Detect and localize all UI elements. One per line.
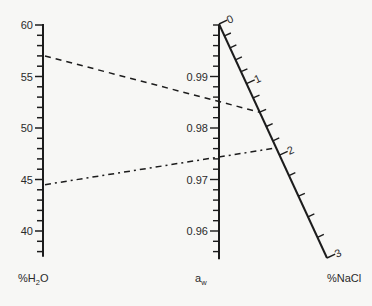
isopleth-line	[45, 56, 260, 112]
h2o-tick-label: 60	[21, 19, 33, 31]
h2o-axis-title: %H2O	[18, 272, 49, 287]
aw-axis-title: aw	[195, 272, 207, 287]
h2o-tick-label: 55	[21, 71, 33, 83]
aw-tick-label: 0.99	[187, 71, 208, 83]
h2o-tick-label: 40	[21, 225, 33, 237]
nomogram-svg: 6055504540 0.990.980.970.96 0123 %H2O aw…	[0, 0, 372, 306]
nacl-minor-tick	[289, 173, 295, 176]
isopleth-lines	[45, 56, 276, 185]
aw-axis: 0.990.980.970.96	[187, 25, 219, 259]
nacl-major-tick	[247, 80, 255, 84]
nacl-minor-tick	[317, 234, 323, 237]
h2o-axis: 6055504540	[21, 19, 43, 257]
nacl-tick-label: 0	[225, 12, 236, 25]
h2o-tick-label: 50	[21, 122, 33, 134]
nacl-minor-tick	[253, 95, 259, 98]
nacl-major-tick	[279, 151, 287, 155]
nomogram-figure: 6055504540 0.990.980.970.96 0123 %H2O aw…	[0, 0, 372, 306]
nacl-minor-tick	[241, 69, 247, 72]
nacl-tick-label: 3	[333, 246, 344, 259]
nacl-minor-tick	[225, 33, 231, 36]
nacl-tick-label: 1	[252, 72, 263, 85]
h2o-tick-label: 45	[21, 174, 33, 186]
nacl-minor-tick	[230, 45, 236, 48]
nacl-minor-tick	[266, 124, 272, 127]
nacl-major-tick	[219, 20, 227, 24]
aw-tick-label: 0.98	[187, 122, 208, 134]
isopleth-line	[45, 148, 276, 185]
nacl-tick-label: 2	[285, 143, 296, 156]
nacl-axis: 0123	[219, 12, 343, 259]
nacl-axis-title: %NaCl	[327, 272, 361, 284]
nacl-major-tick	[327, 254, 335, 258]
nacl-minor-tick	[298, 193, 304, 196]
nacl-minor-tick	[273, 138, 279, 141]
nacl-minor-tick	[236, 57, 242, 60]
aw-tick-label: 0.96	[187, 225, 208, 237]
aw-tick-label: 0.97	[187, 174, 208, 186]
nacl-minor-tick	[308, 214, 314, 217]
nacl-minor-tick	[260, 109, 266, 112]
